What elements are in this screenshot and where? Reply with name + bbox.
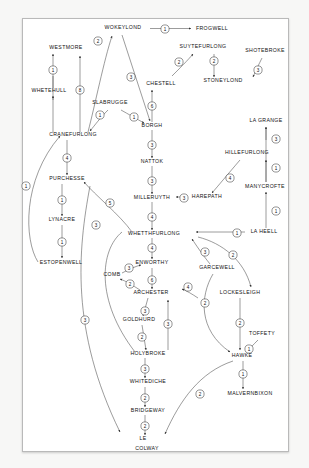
- edge-weight-marker: 3: [254, 66, 262, 74]
- weight-value: 6: [151, 278, 154, 283]
- weight-value: 1: [133, 115, 136, 120]
- edge-weight-marker: 8: [76, 86, 84, 94]
- weight-value: 1: [25, 184, 28, 189]
- weight-value: 2: [204, 301, 207, 306]
- weight-value: 1: [248, 347, 251, 352]
- node-label-hillefurlong: HILLEFURLONG: [225, 149, 269, 155]
- node-label-chestell: CHESTELL: [146, 80, 176, 86]
- weight-value: 2: [239, 321, 242, 326]
- node-label-hawke: HAWKE: [232, 352, 253, 358]
- node-label-suytefurlong: SUYTEFURLONG: [180, 43, 227, 49]
- weight-value: 4: [229, 176, 232, 181]
- weight-value: 6: [151, 104, 154, 109]
- edge-weight-marker: 5: [106, 199, 114, 207]
- edge-weight-marker: 2: [141, 394, 149, 402]
- node-label-wokeylond: WOKEYLOND: [105, 24, 142, 30]
- edge-weight-marker: 6: [148, 102, 156, 110]
- edge-garcewell-hawke: [204, 274, 230, 352]
- node-label-la_grange: LA GRANGE: [249, 117, 282, 123]
- weight-value: 2: [213, 59, 216, 64]
- weight-value: 1: [164, 27, 167, 32]
- node-label-stoneylond: STONEYLOND: [203, 77, 242, 83]
- weight-value: 2: [178, 60, 181, 65]
- edge-weight-marker: 2: [94, 37, 102, 45]
- edge-weight-marker: 3: [141, 365, 149, 373]
- edge-weight-marker: 1: [161, 25, 169, 33]
- edge-weight-marker: 2: [229, 251, 237, 259]
- edge-weight-marker: 1: [49, 66, 57, 74]
- edge-weight-marker: 3: [164, 320, 172, 328]
- weight-value: 1: [242, 372, 245, 377]
- edge-purchesse-colway: [81, 186, 120, 432]
- weight-value: 1: [61, 240, 64, 245]
- edge-weight-marker: 3: [201, 248, 209, 256]
- node-label-whetthfurlong: WHETTHFURLONG: [128, 230, 180, 236]
- node-label-lynacre: LYNACRE: [49, 216, 76, 222]
- edge-weight-marker: 3: [180, 194, 188, 202]
- weight-value: 1: [52, 68, 55, 73]
- weight-value: 2: [141, 335, 144, 340]
- edge-weight-marker: 2: [201, 299, 209, 307]
- node-label-garcewell: GARCEWELL: [199, 264, 235, 270]
- weight-value: 3: [167, 322, 170, 327]
- node-label-slabrugge: SLABRUGGE: [92, 99, 128, 105]
- node-layer: WOKEYLONDFROGWELLWESTMORESUYTEFURLONGSHO…: [31, 24, 285, 451]
- weight-value: 3: [151, 179, 154, 184]
- weight-value: 2: [129, 282, 132, 287]
- edge-weight-marker: 3: [125, 264, 133, 272]
- weight-value: 2: [199, 392, 202, 397]
- node-label-manycrofte: MANYCROFTE: [245, 183, 285, 189]
- node-label-holybroke: HOLYBROKE: [130, 350, 165, 356]
- node-label-colway: COLWAY: [135, 445, 159, 451]
- edge-weight-marker: 2: [141, 422, 149, 430]
- edge-wokeylond-borgh: [122, 35, 150, 121]
- weight-value: 3: [144, 309, 147, 314]
- node-label-milleruyth: MILLERUYTH: [134, 194, 170, 200]
- node-label-borgh: BORGH: [142, 122, 163, 128]
- node-label-harepath: HAREPATH: [192, 193, 222, 199]
- edge-weight-marker: 2: [236, 319, 244, 327]
- weight-value: 4: [187, 285, 190, 290]
- weight-value: 4: [151, 246, 154, 251]
- edge-weight-marker: 4: [148, 213, 156, 221]
- edge-weight-marker: 1: [239, 370, 247, 378]
- node-label-westmore: WESTMORE: [49, 44, 83, 50]
- weight-value: 3: [151, 143, 154, 148]
- edge-weight-marker: 3: [148, 177, 156, 185]
- node-label-purchesse: PURCHESSE: [49, 175, 85, 181]
- weight-value: 3: [257, 68, 260, 73]
- node-label-toffety: TOFFETY: [249, 330, 275, 336]
- weight-value: 3: [183, 196, 186, 201]
- node-label-estopenwell: ESTOPENWELL: [40, 259, 83, 265]
- node-label-whitediche: WHITEDICHE: [130, 378, 167, 384]
- weight-value: 8: [79, 88, 82, 93]
- edge-comb-curve: [105, 232, 135, 352]
- edge-weight-marker: 4: [226, 174, 234, 182]
- edge-weight-marker: 2: [126, 280, 134, 288]
- edge-weight-marker: 4: [148, 244, 156, 252]
- weight-value: 1: [275, 209, 278, 214]
- node-label-comb: COMB: [104, 271, 121, 277]
- edge-weight-marker: 2: [210, 57, 218, 65]
- weight-value: 3: [204, 250, 207, 255]
- weight-value: 1: [61, 198, 64, 203]
- node-label-archester: ARCHESTER: [133, 289, 168, 295]
- edge-chestell-suytefurlong: [172, 54, 193, 76]
- graph-canvas: 1218223311633414331541113132432642321323…: [0, 0, 309, 468]
- node-label-whetehull: WHETEHULL: [31, 87, 66, 93]
- edge-estopenwell-cranefurlong: [29, 136, 60, 262]
- edge-weight-marker: 1: [272, 164, 280, 172]
- weight-value: 1: [275, 166, 278, 171]
- edge-weight-marker: 3: [148, 141, 156, 149]
- weight-value: 1: [99, 113, 102, 118]
- weight-value: 2: [144, 396, 147, 401]
- node-label-bridgeway: BRIDGEWAY: [131, 407, 165, 413]
- node-label-enworthy: ENWORTHY: [136, 259, 169, 265]
- diagram-page: 1218223311633414331541113132432642321323…: [0, 0, 309, 468]
- edge-weight-marker: 3: [141, 307, 149, 315]
- node-label-frogwell: FROGWELL: [196, 25, 228, 31]
- weight-value: 1: [236, 231, 239, 236]
- edge-weight-marker: 1: [96, 111, 104, 119]
- edge-weight-marker: 2: [175, 58, 183, 66]
- weight-value: 2: [232, 253, 235, 258]
